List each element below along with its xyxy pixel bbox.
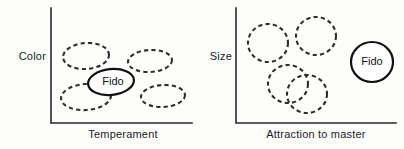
right-panel-fido-label: Fido	[361, 55, 382, 67]
left-panel: Fido	[51, 8, 192, 123]
right-panel-cluster-overlap-front	[287, 75, 327, 113]
right-panel-cluster-upper-left	[248, 24, 288, 62]
left-panel-cluster-lower-right	[140, 84, 185, 108]
left-panel-y-axis-label: Color	[4, 50, 46, 62]
diagram-svg: Fido Fido	[0, 0, 404, 149]
right-panel-x-axis-label: Attraction to master	[236, 128, 396, 140]
right-panel-cluster-overlap-back	[268, 65, 308, 103]
right-panel-y-axis-label: Size	[200, 50, 232, 62]
left-panel-axes	[51, 8, 192, 123]
figure-canvas: Fido Fido Color Temperament Size Attract…	[0, 0, 404, 149]
left-panel-x-axis-label: Temperament	[52, 128, 194, 140]
right-panel: Fido	[236, 8, 396, 123]
left-panel-cluster-upper-right	[127, 49, 172, 73]
left-panel-cluster-upper-left	[62, 41, 110, 70]
right-panel-cluster-upper-right	[296, 17, 336, 55]
left-panel-fido-label: Fido	[102, 75, 123, 87]
